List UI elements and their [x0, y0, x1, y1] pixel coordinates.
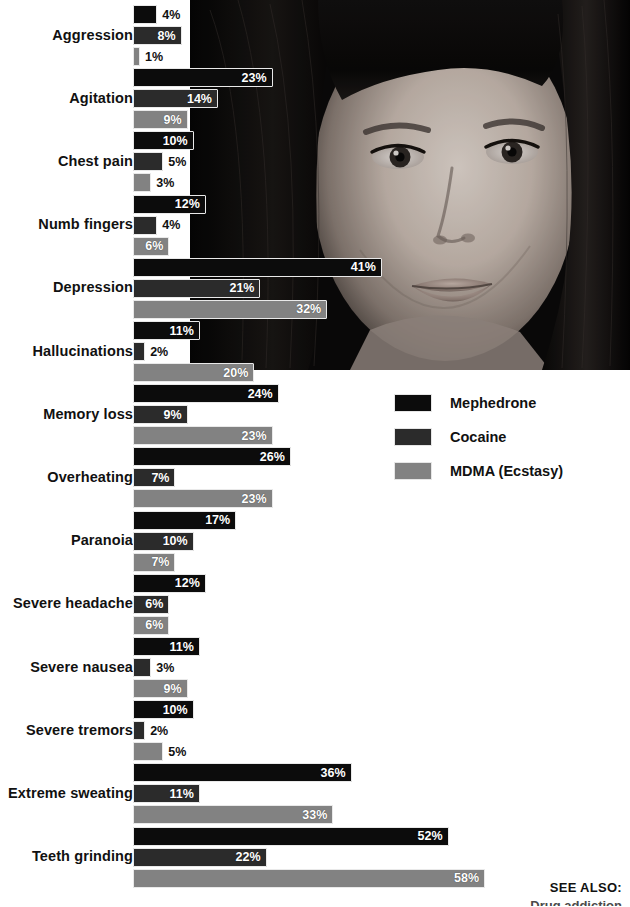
category-label: Paranoia: [71, 532, 133, 548]
bar[interactable]: 23%: [133, 68, 273, 87]
bar-slot: 23%: [133, 68, 630, 87]
bar-group: 11%3%9%: [133, 637, 630, 700]
bar-value-label: 1%: [139, 50, 163, 64]
bar-slot: 23%: [133, 489, 630, 508]
bar[interactable]: 23%: [133, 426, 273, 445]
category-label: Depression: [53, 279, 133, 295]
bar[interactable]: 6%: [133, 237, 169, 256]
category-label: Teeth grinding: [32, 848, 133, 864]
bar[interactable]: 7%: [133, 553, 175, 572]
chart-row: Agitation23%14%9%: [0, 68, 630, 127]
bar-slot: 8%: [133, 26, 630, 45]
category-label: Overheating: [47, 469, 133, 485]
bar[interactable]: 10%: [133, 131, 194, 150]
bar-value-label: 4%: [156, 8, 180, 22]
bar[interactable]: 12%: [133, 195, 206, 214]
bar[interactable]: 3%: [133, 173, 151, 192]
bar[interactable]: 41%: [133, 258, 382, 277]
bar-slot: 12%: [133, 195, 630, 214]
bar-value-label: 32%: [296, 302, 326, 316]
category-label: Memory loss: [43, 406, 133, 422]
bar-group: 11%2%20%: [133, 321, 630, 384]
bar[interactable]: 4%: [133, 216, 157, 235]
legend-swatch: [394, 394, 432, 412]
bar[interactable]: 21%: [133, 279, 260, 298]
bar[interactable]: 9%: [133, 110, 188, 129]
bar-value-label: 11%: [169, 787, 198, 801]
category-label: Severe headache: [13, 595, 133, 611]
bar-value-label: 23%: [242, 429, 272, 443]
bar-group: 4%8%1%: [133, 5, 630, 68]
bar-value-label: 9%: [164, 113, 187, 127]
bar-value-label: 12%: [175, 197, 205, 211]
bar[interactable]: 10%: [133, 700, 194, 719]
chart-row: Severe headache12%6%6%: [0, 574, 630, 633]
bar-slot: 21%: [133, 279, 630, 298]
bar-slot: 10%: [133, 700, 630, 719]
category-label: Aggression: [52, 27, 133, 43]
bar[interactable]: 23%: [133, 489, 273, 508]
bar[interactable]: 32%: [133, 300, 327, 319]
bar-group: 23%14%9%: [133, 68, 630, 131]
category-label: Severe nausea: [30, 659, 133, 675]
bar-slot: 20%: [133, 363, 630, 382]
bar-value-label: 5%: [162, 155, 186, 169]
bar-slot: 11%: [133, 784, 630, 803]
bar[interactable]: 14%: [133, 89, 218, 108]
bar[interactable]: 11%: [133, 321, 200, 340]
bar[interactable]: 11%: [133, 784, 200, 803]
bar[interactable]: 2%: [133, 721, 145, 740]
bar-value-label: 3%: [150, 176, 174, 190]
bar[interactable]: 10%: [133, 532, 194, 551]
bar[interactable]: 22%: [133, 848, 267, 867]
bar-slot: 1%: [133, 47, 630, 66]
legend-label: Cocaine: [450, 429, 506, 445]
bar-slot: 9%: [133, 679, 630, 698]
bar-slot: 4%: [133, 216, 630, 235]
bar-value-label: 23%: [242, 71, 272, 85]
legend-item[interactable]: MDMA (Ecstasy): [394, 454, 624, 488]
chart-row: Teeth grinding52%22%58%: [0, 827, 630, 886]
bar[interactable]: 7%: [133, 468, 175, 487]
bar-group: 12%4%6%: [133, 195, 630, 258]
bar[interactable]: 1%: [133, 47, 140, 66]
legend-label: Mephedrone: [450, 395, 536, 411]
bar[interactable]: 6%: [133, 595, 169, 614]
bar-value-label: 6%: [145, 239, 168, 253]
bar-slot: 11%: [133, 637, 630, 656]
bar[interactable]: 3%: [133, 658, 151, 677]
bar[interactable]: 52%: [133, 827, 449, 846]
bar-value-label: 3%: [150, 661, 174, 675]
bar[interactable]: 5%: [133, 742, 163, 761]
chart-row: Numb fingers12%4%6%: [0, 195, 630, 254]
bar-value-label: 10%: [163, 534, 193, 548]
bar[interactable]: 11%: [133, 637, 200, 656]
bar[interactable]: 26%: [133, 447, 291, 466]
bar[interactable]: 6%: [133, 616, 169, 635]
bar-slot: 17%: [133, 511, 630, 530]
bar[interactable]: 17%: [133, 511, 236, 530]
legend-swatch: [394, 462, 432, 480]
bar[interactable]: 20%: [133, 363, 254, 382]
infographic-root: Aggression4%8%1%Agitation23%14%9%Chest p…: [0, 0, 630, 907]
chart-row: Depression41%21%32%: [0, 258, 630, 317]
bar[interactable]: 33%: [133, 805, 333, 824]
bar[interactable]: 36%: [133, 763, 352, 782]
bar-group: 36%11%33%: [133, 763, 630, 826]
bar[interactable]: 9%: [133, 405, 188, 424]
bar-slot: 10%: [133, 131, 630, 150]
bar-value-label: 14%: [187, 92, 217, 106]
bar[interactable]: 12%: [133, 574, 206, 593]
legend-item[interactable]: Cocaine: [394, 420, 624, 454]
bar[interactable]: 5%: [133, 152, 163, 171]
bar[interactable]: 9%: [133, 679, 188, 698]
category-label: Hallucinations: [33, 343, 134, 359]
chart-legend: MephedroneCocaineMDMA (Ecstasy): [394, 386, 624, 488]
bar[interactable]: 24%: [133, 384, 279, 403]
legend-item[interactable]: Mephedrone: [394, 386, 624, 420]
bar[interactable]: 4%: [133, 5, 157, 24]
bar[interactable]: 8%: [133, 26, 182, 45]
bar-slot: 14%: [133, 89, 630, 108]
bar-group: 12%6%6%: [133, 574, 630, 637]
bar[interactable]: 2%: [133, 342, 145, 361]
